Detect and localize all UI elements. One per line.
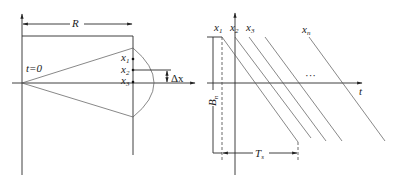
- line-xn-label: xn: [301, 23, 311, 37]
- delta-x-label: Δx: [171, 72, 184, 84]
- ellipsis: ···: [305, 69, 316, 81]
- line-x3: [249, 37, 326, 141]
- line-x2-label: x2: [229, 21, 239, 35]
- line-x1-label: x1: [213, 21, 222, 35]
- point-x3-marker: [132, 81, 135, 84]
- beam-arc: [133, 48, 154, 117]
- origin-label: t=0: [26, 62, 42, 74]
- left-diagram: R x1 x2 x3 Δx t=0: [12, 14, 195, 175]
- line-x1: [222, 37, 298, 142]
- beam-lower-edge: [22, 83, 133, 117]
- r-label: R: [71, 17, 79, 29]
- line-x2: [235, 37, 311, 138]
- line-xn: [309, 37, 385, 141]
- right-diagram: t Bn x1 x2 x3 xn ··· Ts: [206, 13, 385, 175]
- time-axis-label: t: [359, 85, 363, 97]
- line-x4: [265, 37, 342, 141]
- point-x1-marker: [132, 58, 135, 61]
- line-x3-label: x3: [245, 21, 255, 35]
- diagram-canvas: R x1 x2 x3 Δx t=0 t: [0, 0, 397, 187]
